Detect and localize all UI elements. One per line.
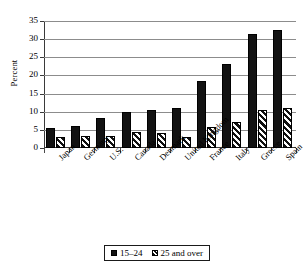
bar-series-15-24 (122, 112, 131, 148)
y-axis-tick-label: 5 (18, 125, 38, 134)
legend-swatch-hatched-icon (152, 250, 158, 256)
legend-entry-series-1: 15–24 (111, 248, 143, 258)
bar-series-15-24 (46, 128, 55, 148)
y-axis-tick-mark (40, 130, 44, 131)
bar-group (69, 21, 94, 148)
y-axis-tick-label: 10 (18, 107, 38, 116)
bar-group (246, 21, 271, 148)
y-axis-tick-label: 25 (18, 52, 38, 61)
bar-group (271, 21, 296, 148)
plot-area (44, 21, 296, 148)
y-axis-tick-mark (40, 39, 44, 40)
y-axis-tick-mark (40, 94, 44, 95)
bar-group (170, 21, 195, 148)
bar-series-15-24 (248, 34, 257, 148)
y-axis-tick-mark (40, 57, 44, 58)
y-axis-tick-label: 35 (18, 16, 38, 25)
legend-label-series-1: 15–24 (120, 248, 143, 258)
bar-chart: Percent 05101520253035 JapanGermanyU.S.C… (0, 0, 304, 273)
legend-entry-series-2: 25 and over (152, 248, 204, 258)
bar-series-25-and-over (132, 132, 141, 148)
bar-group (220, 21, 245, 148)
bar-group (94, 21, 119, 148)
bar-series-25-and-over (232, 122, 241, 148)
y-axis-tick-mark (40, 112, 44, 113)
legend-label-series-2: 25 and over (161, 248, 204, 258)
bar-group (145, 21, 170, 148)
bar-group (44, 21, 69, 148)
y-axis-tick-label: 15 (18, 89, 38, 98)
bar-group (120, 21, 145, 148)
y-axis-tick-label: 20 (18, 70, 38, 79)
bar-series-15-24 (222, 64, 231, 148)
chart-legend: 15–24 25 and over (104, 245, 210, 261)
y-axis-tick-label: 0 (18, 143, 38, 152)
bar-series-25-and-over (157, 133, 166, 148)
bars-layer (44, 21, 296, 148)
bar-series-15-24 (273, 30, 282, 148)
x-axis-tick-mark (44, 148, 45, 153)
bar-series-25-and-over (283, 108, 292, 148)
y-axis-tick-mark (40, 75, 44, 76)
legend-swatch-solid-icon (111, 250, 117, 256)
bar-series-25-and-over (258, 110, 267, 148)
y-axis-tick-label: 30 (18, 34, 38, 43)
y-axis-tick-mark (40, 21, 44, 22)
